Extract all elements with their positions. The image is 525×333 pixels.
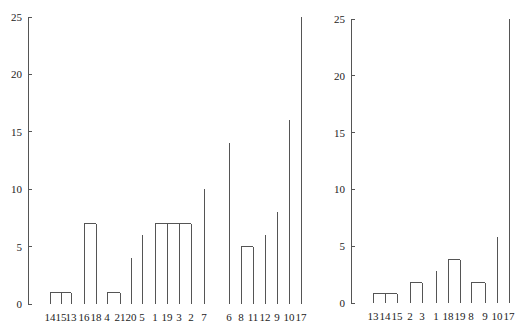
leaf-label: 12 [260, 311, 271, 323]
leaf-label: 2 [407, 310, 413, 322]
leaf-label: 9 [482, 310, 488, 322]
leaf-label: 4 [104, 311, 110, 323]
leaf-label: 11 [248, 311, 259, 323]
leaf-label: 1 [433, 310, 439, 322]
y-tick-label: 25 [11, 11, 23, 23]
y-tick-label: 5 [340, 240, 346, 252]
y-tick-label: 20 [334, 70, 346, 82]
leaf-label: 19 [162, 311, 174, 323]
leaf-label: 18 [91, 311, 103, 323]
y-tick-label: 0 [340, 297, 346, 309]
leaf-label: 18 [443, 310, 455, 322]
leaf-label: 13 [66, 311, 78, 323]
leaf-label: 17 [296, 311, 308, 323]
leaf-label: 19 [455, 310, 467, 322]
leaf-label: 17 [504, 310, 516, 322]
leaf-label: 3 [419, 310, 425, 322]
y-tick-label: 20 [11, 68, 23, 80]
leaf-label: 14 [380, 310, 392, 322]
y-tick-label: 25 [334, 13, 346, 25]
y-tick-label: 5 [17, 241, 23, 253]
leaf-label: 10 [284, 311, 296, 323]
y-tick-label: 10 [11, 183, 23, 195]
leaf-label: 16 [79, 311, 91, 323]
leaf-label: 1 [152, 311, 158, 323]
leaf-label: 6 [226, 311, 232, 323]
right-dendrogram: 05101520251314152311819891017 [0, 13, 515, 322]
leaf-label: 15 [392, 310, 404, 322]
leaf-label: 20 [126, 311, 138, 323]
left-dendrogram: 0510152025141513161842120511932768111291… [0, 11, 307, 323]
leaf-label: 14 [45, 311, 57, 323]
y-tick-label: 0 [17, 298, 23, 310]
leaf-label: 2 [188, 311, 194, 323]
leaf-label: 21 [115, 311, 126, 323]
leaf-label: 7 [201, 311, 207, 323]
leaf-label: 8 [468, 310, 474, 322]
leaf-label: 3 [176, 311, 182, 323]
y-tick-label: 10 [334, 183, 346, 195]
leaf-label: 5 [139, 311, 145, 323]
y-tick-label: 15 [11, 126, 23, 138]
leaf-label: 13 [368, 310, 380, 322]
leaf-label: 9 [274, 311, 280, 323]
leaf-label: 8 [238, 311, 244, 323]
dendrogram-figure: 0510152025141513161842120511932768111291… [0, 0, 525, 333]
y-tick-label: 15 [334, 127, 346, 139]
leaf-label: 10 [492, 310, 504, 322]
